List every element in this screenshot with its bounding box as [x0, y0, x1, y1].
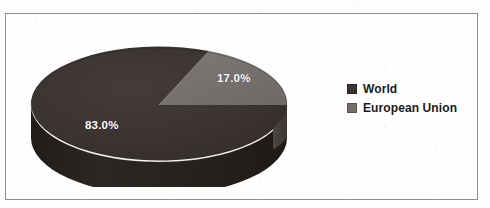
pie-svg — [26, 32, 291, 187]
legend-swatch-world — [347, 84, 357, 94]
pie-label-world: 83.0% — [85, 119, 119, 131]
pie-label-european-union: 17.0% — [217, 72, 251, 84]
pie-chart: 17.0% 83.0% — [6, 14, 336, 201]
pie-3d-graphic — [26, 32, 291, 187]
legend-swatch-european-union — [347, 103, 357, 113]
chart-screenshot: 17.0% 83.0% World European Union — [0, 0, 490, 208]
chart-frame: 17.0% 83.0% World European Union — [5, 13, 478, 200]
chart-legend: World European Union — [347, 80, 487, 118]
legend-label-european-union: European Union — [363, 101, 457, 115]
legend-item-european-union[interactable]: European Union — [347, 99, 487, 116]
legend-item-world[interactable]: World — [347, 80, 487, 97]
legend-label-world: World — [363, 82, 397, 96]
